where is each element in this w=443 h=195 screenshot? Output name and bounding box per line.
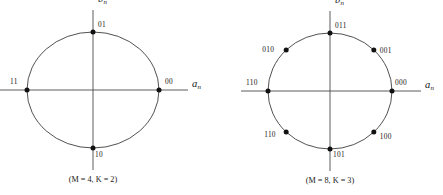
- x-axis-label-psk-4: an: [192, 79, 201, 91]
- constellation-point-psk-8-000-0[interactable]: [390, 89, 395, 94]
- constellation-point-psk-4-00-0[interactable]: [157, 88, 162, 93]
- constellation-point-psk-8-001-1[interactable]: [371, 47, 376, 52]
- diagram-caption-psk-8: (M = 8, K = 3): [270, 177, 390, 185]
- constellation-point-psk-8-110-4[interactable]: [266, 89, 271, 94]
- constellation-point-psk-8-101-6[interactable]: [328, 147, 333, 152]
- point-label-psk-8-5: 110: [264, 131, 276, 138]
- y-axis-label-base-psk-4: b: [98, 0, 103, 4]
- constellation-point-psk-8-100-7[interactable]: [371, 130, 376, 135]
- y-axis-label-psk-4: bn: [98, 0, 107, 6]
- x-axis-label-subscript-psk-4: n: [198, 83, 202, 91]
- constellation-figure: 00011110anbn(M = 4, K = 2)00000101101011…: [0, 0, 443, 195]
- constellation-point-psk-8-110-5[interactable]: [284, 130, 289, 135]
- diagram-caption-psk-4: (M = 4, K = 2): [33, 176, 153, 184]
- y-axis-label-base-psk-8: b: [335, 0, 340, 5]
- constellation-point-psk-4-01-1[interactable]: [91, 30, 96, 35]
- point-label-psk-8-2: 011: [335, 22, 347, 29]
- constellation-point-psk-4-11-2[interactable]: [25, 88, 30, 93]
- x-axis-label-base-psk-8: a: [425, 79, 430, 90]
- point-label-psk-4-0: 00: [165, 78, 173, 85]
- x-axis-label-subscript-psk-8: n: [431, 84, 435, 92]
- y-axis-label-subscript-psk-8: n: [341, 0, 345, 7]
- point-label-psk-8-1: 001: [380, 47, 392, 54]
- x-axis-label-psk-8: an: [425, 80, 434, 92]
- point-label-psk-8-3: 010: [262, 46, 274, 53]
- y-axis-label-psk-8: bn: [335, 0, 344, 7]
- point-label-psk-8-7: 100: [380, 133, 392, 140]
- constellation-vector-canvas: [0, 0, 443, 195]
- constellation-point-psk-8-010-3[interactable]: [284, 47, 289, 52]
- point-label-psk-4-1: 01: [98, 21, 106, 28]
- point-label-psk-8-6: 101: [333, 151, 345, 158]
- point-label-psk-8-4: 110: [246, 79, 258, 86]
- y-axis-label-subscript-psk-4: n: [104, 0, 108, 6]
- constellation-point-psk-8-011-2[interactable]: [328, 31, 333, 36]
- point-label-psk-4-2: 11: [10, 78, 18, 85]
- point-label-psk-8-0: 000: [395, 79, 407, 86]
- x-axis-label-base-psk-4: a: [192, 78, 197, 89]
- point-label-psk-4-3: 10: [95, 151, 103, 158]
